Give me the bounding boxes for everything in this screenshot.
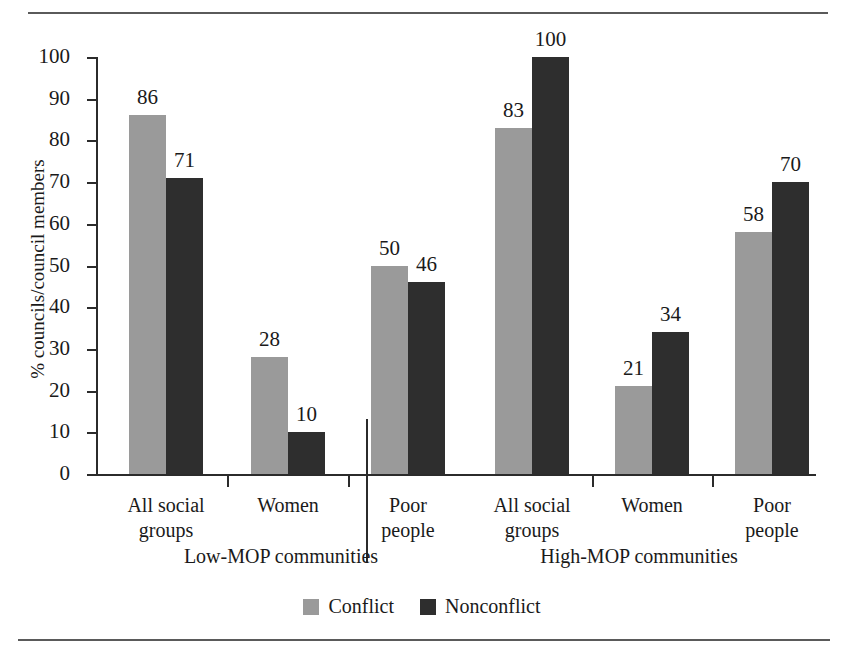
category-label-line: groups [457, 518, 607, 543]
bar-conflict: 21 [615, 386, 652, 474]
y-tick-label-70: 70 [49, 169, 70, 194]
y-tick-label-100: 100 [39, 44, 71, 69]
bar-conflict: 58 [735, 232, 772, 474]
category-label: Poorpeople [697, 493, 844, 544]
x-group-tick [592, 476, 594, 487]
category-label-line: people [697, 518, 844, 543]
bar-nonconflict: 46 [408, 282, 445, 474]
y-tick-label-60: 60 [49, 211, 70, 236]
y-axis-title: % councils/council members [27, 89, 49, 449]
panel-title-left: Low-MOP communities [111, 545, 451, 568]
conflict-swatch [303, 599, 319, 615]
figure: % councils/council members 0102030405060… [0, 0, 844, 654]
bar-value-label: 10 [296, 402, 317, 427]
bar-value-label: 70 [780, 152, 801, 177]
bottom-rule [18, 639, 830, 641]
y-tick-label-40: 40 [49, 294, 70, 319]
bar-nonconflict: 34 [652, 332, 689, 474]
y-tick-label-0: 0 [60, 461, 71, 486]
legend: ConflictNonconflict [0, 595, 844, 618]
bar-value-label: 34 [660, 302, 681, 327]
legend-label: Conflict [328, 595, 394, 618]
bar-nonconflict: 71 [166, 178, 203, 474]
bar-value-label: 46 [416, 252, 437, 277]
bar-value-label: 100 [535, 27, 567, 52]
bar-series-container: 8671281050468310021345870 [96, 57, 816, 474]
bar-conflict: 28 [251, 357, 288, 474]
top-rule [28, 12, 828, 14]
bar-conflict: 50 [371, 266, 408, 475]
bar-value-label: 71 [174, 148, 195, 173]
bar-value-label: 21 [623, 356, 644, 381]
bar-nonconflict: 10 [288, 432, 325, 474]
bar-conflict: 83 [495, 128, 532, 474]
panel-divider [366, 419, 368, 563]
legend-item: Nonconflict [420, 595, 541, 618]
nonconflict-swatch [420, 599, 436, 615]
bar-value-label: 28 [259, 327, 280, 352]
x-axis-line [96, 474, 816, 476]
bar-conflict: 86 [129, 115, 166, 474]
y-tick-label-80: 80 [49, 127, 70, 152]
x-group-tick [712, 476, 714, 487]
y-tick-label-20: 20 [49, 378, 70, 403]
bar-nonconflict: 70 [772, 182, 809, 474]
bar-value-label: 58 [743, 202, 764, 227]
bar-value-label: 50 [379, 236, 400, 261]
bar-value-label: 86 [137, 85, 158, 110]
y-tick-label-10: 10 [49, 419, 70, 444]
y-tick-label-50: 50 [49, 253, 70, 278]
category-label-line: Poor [697, 493, 844, 518]
y-tick-0: 0 [87, 474, 97, 476]
y-tick-label-90: 90 [49, 86, 70, 111]
legend-label: Nonconflict [445, 595, 541, 618]
legend-item: Conflict [303, 595, 394, 618]
bar-value-label: 83 [503, 98, 524, 123]
bar-nonconflict: 100 [532, 57, 569, 474]
x-group-tick [227, 476, 229, 487]
panel-title-right: High-MOP communities [469, 545, 809, 568]
y-tick-label-30: 30 [49, 336, 70, 361]
x-group-tick [348, 476, 350, 487]
category-label-line: groups [91, 518, 241, 543]
plot-area: 0102030405060708090100 86712810504683100… [96, 57, 816, 475]
